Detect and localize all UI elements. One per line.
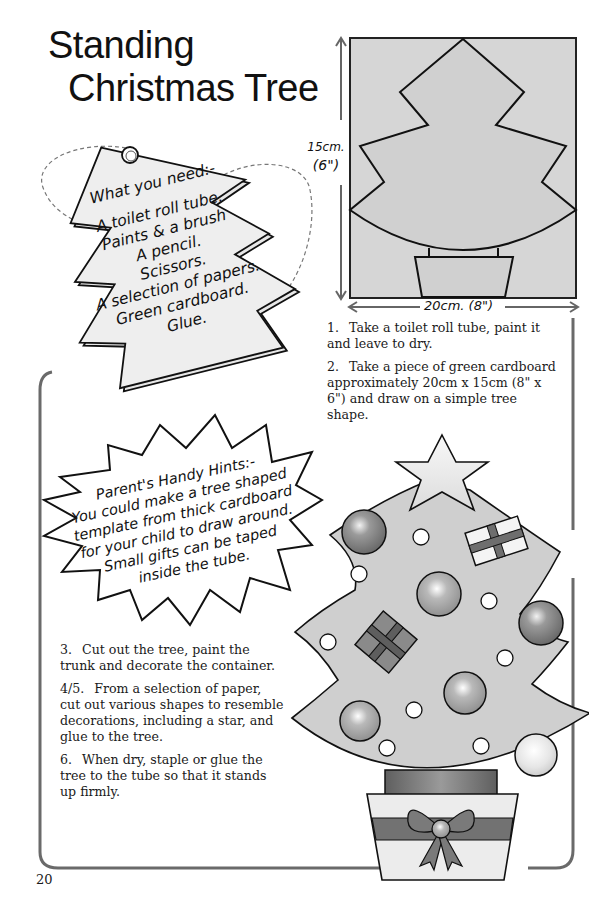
step-6: 6.When dry, staple or glue the tree to t…	[60, 752, 285, 800]
height-label-imperial: (6")	[306, 156, 346, 174]
page-number: 20	[36, 872, 53, 887]
step-4-5: 4/5.From a selection of paper, cut out v…	[60, 681, 285, 745]
step-3: 3.Cut out the tree, paint the trunk and …	[60, 642, 285, 674]
step-1: 1.Take a toilet roll tube, paint it and …	[327, 320, 559, 352]
step-2: 2.Take a piece of green cardboard approx…	[327, 359, 559, 423]
tag-hole-icon	[122, 147, 138, 163]
steps-bottom: 3.Cut out the tree, paint the trunk and …	[60, 642, 285, 807]
page-title-line-1: Standing	[48, 24, 194, 66]
height-dimension-label: 15cm. (6")	[306, 138, 346, 174]
width-dimension-label: 20cm. (8")	[424, 298, 493, 313]
page-title-line-2: Christmas Tree	[68, 67, 319, 109]
decorated-tree-illustration	[292, 435, 589, 880]
steps-top: 1.Take a toilet roll tube, paint it and …	[327, 320, 559, 430]
height-label-metric: 15cm.	[306, 138, 346, 156]
template-diagram	[336, 38, 578, 312]
